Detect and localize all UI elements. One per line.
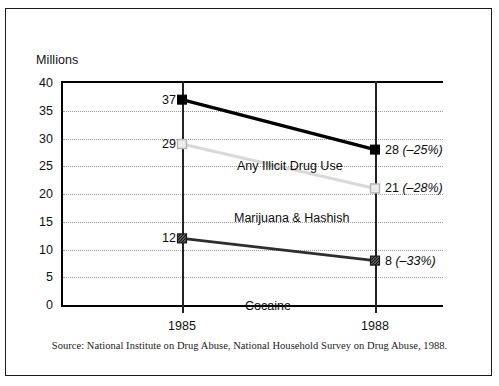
y-tick-label: 40 xyxy=(9,77,53,90)
y-tick-label: 0 xyxy=(9,299,53,312)
end-value-number: 8 xyxy=(385,254,395,268)
y-tick-label: 35 xyxy=(9,105,53,118)
end-value-number: 21 xyxy=(385,181,402,195)
series-line xyxy=(182,238,375,260)
end-value-change-pct: (–25%) xyxy=(402,143,442,157)
data-point-marker xyxy=(178,140,187,149)
x-tick-label: 1985 xyxy=(152,319,212,333)
end-value-label: 21 (–28%) xyxy=(385,181,443,195)
x-tick-mark xyxy=(375,306,377,313)
source-note: Source: National Institute on Drug Abuse… xyxy=(0,340,499,351)
data-point-marker xyxy=(371,256,380,265)
data-point-marker xyxy=(371,184,380,193)
end-value-label: 28 (–25%) xyxy=(385,143,443,157)
y-tick-label: 15 xyxy=(9,216,53,229)
y-tick-label: 20 xyxy=(9,188,53,201)
end-value-label: 8 (–33%) xyxy=(385,254,436,268)
start-value-label: 29 xyxy=(154,137,176,151)
data-point-marker xyxy=(178,234,187,243)
x-tick-mark xyxy=(182,306,184,313)
plot-area: 0510152025303540 Any Illicit Drug UseMar… xyxy=(61,81,443,307)
data-point-marker xyxy=(178,95,187,104)
y-tick-label: 10 xyxy=(9,244,53,257)
y-axis-title: Millions xyxy=(36,53,78,67)
chart-page-frame: Millions 0510152025303540 Any Illicit Dr… xyxy=(5,8,492,376)
x-tick-label: 1988 xyxy=(345,319,405,333)
series-lines xyxy=(182,100,375,261)
series-name-label: Marijuana & Hashish xyxy=(234,211,349,225)
end-value-number: 28 xyxy=(385,143,402,157)
series-name-label: Cocaine xyxy=(245,299,291,313)
series-line xyxy=(182,100,375,150)
start-value-label: 12 xyxy=(154,231,176,245)
series-name-label: Any Illicit Drug Use xyxy=(237,159,343,173)
data-point-marker xyxy=(371,145,380,154)
end-value-change-pct: (–28%) xyxy=(402,181,442,195)
start-value-label: 37 xyxy=(154,93,176,107)
y-tick-label: 30 xyxy=(9,133,53,146)
y-tick-label: 5 xyxy=(9,271,53,284)
y-tick-label: 25 xyxy=(9,160,53,173)
end-value-change-pct: (–33%) xyxy=(395,254,435,268)
series-markers xyxy=(178,95,380,265)
